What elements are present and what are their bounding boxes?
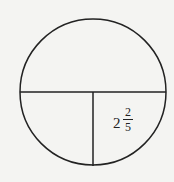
fraction-numerator: 2 [123, 106, 133, 118]
label-whole-number: 2 [113, 115, 121, 132]
circle-diagram [0, 0, 174, 182]
fraction-denominator: 5 [123, 121, 133, 133]
label-fraction: 2 5 [123, 106, 133, 133]
